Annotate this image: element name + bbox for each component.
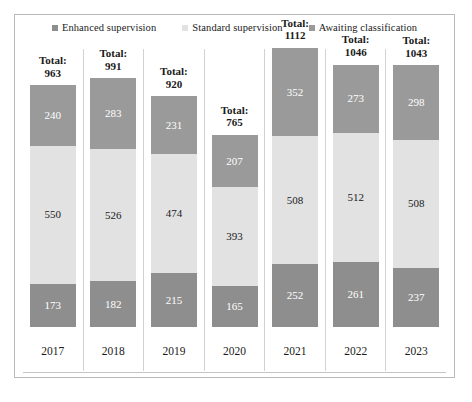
column-container: 240550173Total:9632017283526182Total:991… [23, 49, 446, 371]
bar-segment-standard-supervision[interactable]: 508 [393, 140, 439, 267]
stacked-bar[interactable]: 283526182 [90, 78, 136, 327]
bar-total-prefix: Total: [221, 104, 249, 117]
legend-label-enhanced-supervision: Enhanced supervision [62, 23, 156, 34]
stacked-bar[interactable]: 273512261 [333, 65, 379, 327]
bar-segment-awaiting-classification[interactable]: 240 [30, 85, 76, 145]
bar-segment-standard-supervision[interactable]: 512 [333, 133, 379, 261]
bar-segment-value: 261 [347, 289, 364, 300]
bar-segment-value: 508 [408, 198, 425, 209]
category-label-2020: 2020 [223, 346, 246, 358]
category-label-2017: 2017 [41, 346, 64, 358]
bar-segment-standard-supervision[interactable]: 526 [90, 149, 136, 281]
bar-segment-standard-supervision[interactable]: 508 [272, 136, 318, 263]
bar-total-label: Total:920 [160, 65, 188, 90]
bar-segment-value: 352 [287, 87, 304, 98]
bar-segment-awaiting-classification[interactable]: 207 [212, 135, 258, 187]
bar-segment-awaiting-classification[interactable]: 352 [272, 48, 318, 136]
bar-total-prefix: Total: [281, 17, 309, 30]
bar-segment-value: 207 [226, 156, 243, 167]
chart-legend: Enhanced supervision Standard supervisio… [15, 23, 454, 34]
legend-swatch-standard-supervision [182, 25, 188, 31]
bar-segment-awaiting-classification[interactable]: 283 [90, 78, 136, 149]
bar-total-label: Total:991 [100, 47, 128, 72]
bar-segment-awaiting-classification[interactable]: 231 [151, 96, 197, 154]
bar-segment-enhanced-supervision[interactable]: 182 [90, 281, 136, 327]
bar-segment-value: 252 [287, 290, 304, 301]
bar-segment-value: 215 [166, 295, 183, 306]
bar-segment-awaiting-classification[interactable]: 273 [333, 65, 379, 133]
bar-total-prefix: Total: [160, 65, 188, 78]
legend-item-awaiting-classification: Awaiting classification [309, 23, 417, 34]
stacked-bar[interactable]: 231474215 [151, 96, 197, 327]
bar-total-label: Total:765 [221, 104, 249, 129]
chart-column-2022: 273512261Total:10462022 [326, 49, 387, 371]
bar-segment-value: 550 [45, 209, 62, 220]
plot-inner: 240550173Total:9632017283526182Total:991… [23, 49, 446, 371]
bar-total-label: Total:963 [39, 54, 67, 79]
bar-total-value: 920 [160, 78, 188, 91]
bar-total-prefix: Total: [402, 34, 430, 47]
bar-segment-awaiting-classification[interactable]: 298 [393, 65, 439, 140]
bar-total-label: Total:1046 [342, 33, 370, 58]
bar-segment-standard-supervision[interactable]: 550 [30, 146, 76, 284]
bar-segment-value: 182 [105, 299, 122, 310]
bar-segment-standard-supervision[interactable]: 474 [151, 154, 197, 273]
bar-segment-value: 237 [408, 292, 425, 303]
bar-segment-value: 474 [166, 208, 183, 219]
stacked-bar[interactable]: 352508252 [272, 48, 318, 327]
chart-column-2019: 231474215Total:9202019 [144, 49, 205, 371]
category-axis-line [23, 372, 446, 373]
legend-label-standard-supervision: Standard supervision [192, 23, 282, 34]
bar-total-value: 1112 [281, 29, 309, 42]
bar-segment-value: 512 [347, 192, 364, 203]
chart-column-2020: 207393165Total:7652020 [205, 49, 266, 371]
bar-segment-value: 240 [45, 110, 62, 121]
chart-frame: Enhanced supervision Standard supervisio… [14, 14, 455, 378]
bar-segment-value: 508 [287, 195, 304, 206]
chart-column-2017: 240550173Total:9632017 [23, 49, 84, 371]
legend-swatch-awaiting-classification [309, 25, 315, 31]
bar-segment-enhanced-supervision[interactable]: 261 [333, 262, 379, 327]
category-label-2022: 2022 [344, 346, 367, 358]
category-label-2021: 2021 [284, 346, 307, 358]
bar-segment-value: 393 [226, 231, 243, 242]
bar-segment-value: 165 [226, 301, 243, 312]
bar-total-label: Total:1043 [402, 34, 430, 59]
chart-column-2018: 283526182Total:9912018 [84, 49, 145, 371]
plot-area: 240550173Total:9632017283526182Total:991… [23, 49, 446, 371]
bar-total-prefix: Total: [100, 47, 128, 60]
legend-swatch-enhanced-supervision [52, 25, 58, 31]
chart-column-2021: 352508252Total:11122021 [265, 49, 326, 371]
chart-column-2023: 298508237Total:10432023 [386, 49, 446, 371]
category-label-2018: 2018 [102, 346, 125, 358]
bar-segment-value: 283 [105, 108, 122, 119]
bar-total-prefix: Total: [39, 54, 67, 67]
bar-segment-standard-supervision[interactable]: 393 [212, 187, 258, 286]
category-label-2019: 2019 [162, 346, 185, 358]
bar-segment-enhanced-supervision[interactable]: 173 [30, 284, 76, 327]
bar-segment-enhanced-supervision[interactable]: 237 [393, 268, 439, 327]
bar-segment-enhanced-supervision[interactable]: 165 [212, 286, 258, 327]
bar-segment-value: 298 [408, 97, 425, 108]
stacked-bar[interactable]: 207393165 [212, 135, 258, 327]
legend-item-enhanced-supervision: Enhanced supervision [52, 23, 156, 34]
bar-segment-value: 526 [105, 210, 122, 221]
bar-segment-value: 173 [45, 300, 62, 311]
bar-total-value: 963 [39, 67, 67, 80]
legend-label-awaiting-classification: Awaiting classification [319, 23, 417, 34]
bar-segment-enhanced-supervision[interactable]: 215 [151, 273, 197, 327]
bar-total-label: Total:1112 [281, 17, 309, 42]
bar-total-value: 765 [221, 116, 249, 129]
stacked-bar[interactable]: 240550173 [30, 85, 76, 327]
category-label-2023: 2023 [405, 346, 428, 358]
bar-segment-enhanced-supervision[interactable]: 252 [272, 264, 318, 327]
stacked-bar[interactable]: 298508237 [393, 65, 439, 327]
bar-total-value: 1046 [342, 46, 370, 59]
bar-total-value: 991 [100, 60, 128, 73]
bar-segment-value: 273 [347, 93, 364, 104]
bar-total-value: 1043 [402, 47, 430, 60]
bar-total-prefix: Total: [342, 33, 370, 46]
bar-segment-value: 231 [166, 120, 183, 131]
legend-item-standard-supervision: Standard supervision [182, 23, 282, 34]
